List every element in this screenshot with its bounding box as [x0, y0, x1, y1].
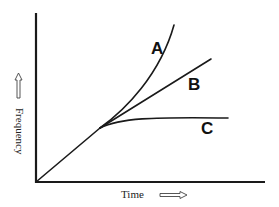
frequency-time-diagram: A B C Frequency Time [0, 0, 279, 207]
x-axis-label: Time [121, 188, 144, 200]
arrow-right-icon [160, 192, 187, 199]
curve-a-label: A [151, 39, 163, 58]
curve-c-label: C [201, 119, 213, 138]
curve-b-label: B [188, 75, 200, 94]
shared-linear-segment [36, 128, 100, 182]
arrow-up-icon [15, 73, 22, 98]
y-axis-label: Frequency [14, 108, 26, 155]
